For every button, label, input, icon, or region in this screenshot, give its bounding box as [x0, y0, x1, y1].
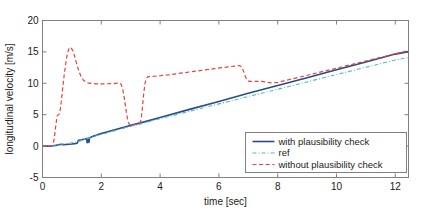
x-tick-label: 12 — [390, 181, 402, 192]
x-tick-label: 2 — [99, 181, 105, 192]
series-group — [43, 47, 409, 146]
x-tick-label: 10 — [331, 181, 343, 192]
y-axis-label: longitudinal velocity [m/s] — [4, 43, 15, 154]
series-line-0 — [43, 52, 409, 147]
chart-figure: 024681012-505101520time [sec]longitudina… — [0, 0, 426, 218]
y-tick-label: 0 — [33, 141, 39, 152]
legend-label-2: without plausibility check — [278, 159, 383, 170]
x-tick-label: 0 — [40, 181, 46, 192]
y-tick-label: 20 — [27, 15, 39, 26]
legend-label-1: ref — [279, 147, 290, 158]
y-tick-label: 15 — [27, 46, 39, 57]
y-tick-label: 5 — [33, 109, 39, 120]
x-axis-label: time [sec] — [204, 196, 247, 207]
legend: with plausibility checkrefwithout plausi… — [246, 133, 407, 173]
y-tick-label: 10 — [27, 78, 39, 89]
legend-label-0: with plausibility check — [278, 136, 370, 147]
line-chart: 024681012-505101520time [sec]longitudina… — [0, 0, 426, 218]
x-tick-label: 6 — [216, 181, 222, 192]
x-tick-label: 4 — [157, 181, 163, 192]
x-tick-label: 8 — [275, 181, 281, 192]
y-tick-label: -5 — [30, 172, 39, 183]
series-line-2 — [43, 47, 409, 146]
